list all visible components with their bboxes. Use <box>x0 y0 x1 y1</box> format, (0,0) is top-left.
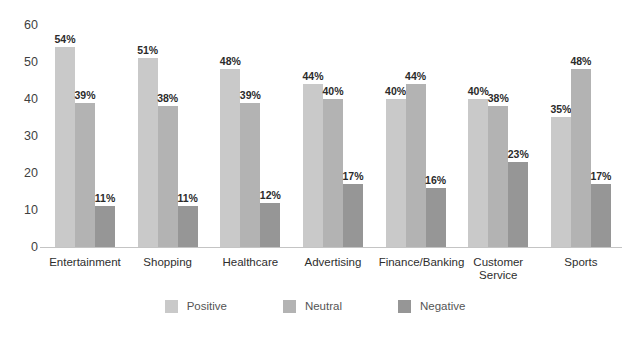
bar-value-label: 12% <box>260 190 281 201</box>
bar-negative[interactable] <box>591 184 611 247</box>
legend-swatch-icon <box>165 300 178 313</box>
x-axis-categories: EntertainmentShoppingHealthcareAdvertisi… <box>48 252 618 294</box>
legend-swatch-icon <box>283 300 296 313</box>
bar-group: 44%40%17% <box>296 25 370 247</box>
bar-value-label: 11% <box>95 193 115 204</box>
y-axis: 60 50 40 30 20 10 0 <box>0 0 48 272</box>
category-label: Shopping <box>131 252 205 294</box>
legend-item-positive[interactable]: Positive <box>165 300 227 313</box>
y-tick-40: 40 <box>4 93 38 106</box>
bar-slot: 48% <box>220 25 240 247</box>
bar-value-label: 51% <box>137 45 158 56</box>
bar-neutral[interactable] <box>406 84 426 247</box>
bar-slot: 12% <box>260 25 280 247</box>
bar-value-label: 39% <box>74 90 95 101</box>
bar-value-label: 40% <box>468 86 489 97</box>
bar-value-label: 17% <box>590 171 611 182</box>
bar-value-label: 48% <box>570 56 591 67</box>
bar-negative[interactable] <box>343 184 363 247</box>
legend-label: Negative <box>420 301 465 313</box>
legend-item-neutral[interactable]: Neutral <box>283 300 342 313</box>
bar-neutral[interactable] <box>240 103 260 247</box>
y-tick-60: 60 <box>4 19 38 32</box>
bar-slot: 11% <box>95 25 115 247</box>
bar-slot: 40% <box>386 25 406 247</box>
bar-positive[interactable] <box>138 58 158 247</box>
grouped-bar-chart: 60 50 40 30 20 10 0 54%39%11%51%38%11%48… <box>0 0 630 343</box>
bar-slot: 54% <box>55 25 75 247</box>
bar-negative[interactable] <box>178 206 198 247</box>
bar-neutral[interactable] <box>323 99 343 247</box>
bar-positive[interactable] <box>303 84 323 247</box>
bar-group: 48%39%12% <box>213 25 287 247</box>
bar-negative[interactable] <box>508 162 528 247</box>
category-label: Customer Service <box>461 252 535 294</box>
bar-slot: 44% <box>406 25 426 247</box>
category-label: Healthcare <box>213 252 287 294</box>
bar-value-label: 44% <box>405 71 426 82</box>
category-label: Advertising <box>296 252 370 294</box>
legend-label: Neutral <box>305 301 342 313</box>
bar-group: 40%44%16% <box>379 25 453 247</box>
bar-value-label: 35% <box>550 104 571 115</box>
bar-neutral[interactable] <box>75 103 95 247</box>
bar-value-label: 17% <box>342 171 363 182</box>
y-tick-0: 0 <box>4 241 38 254</box>
bar-negative[interactable] <box>426 188 446 247</box>
bar-slot: 16% <box>426 25 446 247</box>
chart-legend: PositiveNeutralNegative <box>0 300 630 313</box>
bar-slot: 17% <box>343 25 363 247</box>
bar-group: 54%39%11% <box>48 25 122 247</box>
bar-group: 35%48%17% <box>544 25 618 247</box>
bar-slot: 11% <box>178 25 198 247</box>
category-label: Entertainment <box>48 252 122 294</box>
legend-swatch-icon <box>398 300 411 313</box>
bar-value-label: 11% <box>177 193 197 204</box>
bar-slot: 39% <box>75 25 95 247</box>
bar-positive[interactable] <box>55 47 75 247</box>
legend-label: Positive <box>187 301 227 313</box>
bar-value-label: 38% <box>488 93 509 104</box>
bar-value-label: 48% <box>220 56 241 67</box>
y-tick-10: 10 <box>4 204 38 217</box>
bar-slot: 40% <box>323 25 343 247</box>
y-tick-20: 20 <box>4 167 38 180</box>
legend-item-negative[interactable]: Negative <box>398 300 465 313</box>
bar-positive[interactable] <box>551 117 571 247</box>
bar-value-label: 38% <box>157 93 178 104</box>
bar-slot: 51% <box>138 25 158 247</box>
bar-value-label: 16% <box>425 175 446 186</box>
bar-slot: 40% <box>468 25 488 247</box>
bar-neutral[interactable] <box>571 69 591 247</box>
bar-negative[interactable] <box>95 206 115 247</box>
bar-value-label: 54% <box>54 34 75 45</box>
bar-positive[interactable] <box>468 99 488 247</box>
bar-slot: 35% <box>551 25 571 247</box>
bar-slot: 17% <box>591 25 611 247</box>
bar-neutral[interactable] <box>488 106 508 247</box>
bar-group: 40%38%23% <box>461 25 535 247</box>
bar-positive[interactable] <box>220 69 240 247</box>
bar-slot: 39% <box>240 25 260 247</box>
bar-slot: 38% <box>158 25 178 247</box>
bar-value-label: 23% <box>508 149 529 160</box>
bar-value-label: 39% <box>240 90 261 101</box>
bar-slot: 48% <box>571 25 591 247</box>
bar-neutral[interactable] <box>158 106 178 247</box>
category-label: Finance/Banking <box>379 252 453 294</box>
y-tick-30: 30 <box>4 130 38 143</box>
x-axis-baseline <box>40 247 622 248</box>
bar-slot: 38% <box>488 25 508 247</box>
plot-area: 54%39%11%51%38%11%48%39%12%44%40%17%40%4… <box>48 25 618 247</box>
bar-negative[interactable] <box>260 203 280 247</box>
bar-slot: 23% <box>508 25 528 247</box>
y-tick-50: 50 <box>4 56 38 69</box>
category-label: Sports <box>544 252 618 294</box>
bar-value-label: 40% <box>385 86 406 97</box>
bar-positive[interactable] <box>386 99 406 247</box>
bar-value-label: 44% <box>302 71 323 82</box>
bar-group: 51%38%11% <box>131 25 205 247</box>
bar-groups: 54%39%11%51%38%11%48%39%12%44%40%17%40%4… <box>48 25 618 247</box>
bar-slot: 44% <box>303 25 323 247</box>
bar-value-label: 40% <box>322 86 343 97</box>
